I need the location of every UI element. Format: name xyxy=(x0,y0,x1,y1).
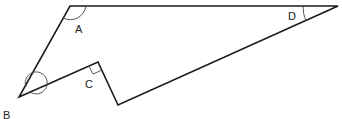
angle-b-arc xyxy=(25,72,47,94)
angle-d-arc xyxy=(303,6,306,21)
polygon-diagram: A B C D xyxy=(0,0,342,119)
label-d: D xyxy=(288,10,296,22)
label-c: C xyxy=(85,78,93,90)
label-b: B xyxy=(3,109,10,119)
label-a: A xyxy=(75,23,83,35)
